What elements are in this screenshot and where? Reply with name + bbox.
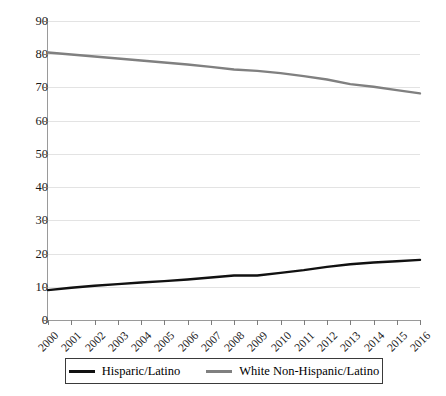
legend-entry: Hisparic/Latino [69, 365, 180, 378]
line-chart: 0102030405060708090 20002001200220032004… [0, 0, 446, 396]
legend-swatch-hispanic-latino [69, 370, 95, 373]
series-line [48, 53, 420, 94]
legend-label-hispanic-latino: Hisparic/Latino [102, 365, 180, 378]
chart-legend: Hisparic/Latino White Non-Hispanic/Latin… [65, 358, 383, 384]
series-layer [0, 0, 446, 396]
legend-label-white-non-hispanic-latino: White Non-Hispanic/Latino [239, 365, 379, 378]
legend-entry: White Non-Hispanic/Latino [206, 365, 379, 378]
legend-swatch-white-non-hispanic-latino [206, 370, 232, 373]
series-line [48, 260, 420, 290]
